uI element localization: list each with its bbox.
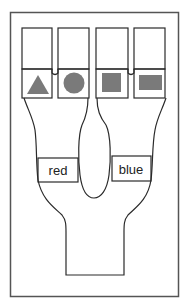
funnel-outline [24, 98, 166, 275]
center-divider [79, 125, 111, 198]
square-icon [102, 73, 121, 92]
connector-left [52, 69, 58, 75]
triangle-icon [27, 75, 49, 94]
left-prong-inner [82, 98, 88, 125]
right-prong-inner [97, 98, 106, 125]
rectangle-icon [139, 75, 162, 90]
top-box-2 [58, 28, 89, 69]
outer-frame [11, 13, 179, 297]
circle-icon [64, 73, 85, 94]
funnel-diagram: red blue [0, 0, 187, 303]
connector-right [128, 69, 134, 75]
label-blue: blue [119, 162, 144, 177]
label-red: red [49, 163, 68, 178]
top-box-1 [22, 28, 52, 69]
top-box-3 [96, 28, 128, 69]
top-box-4 [134, 28, 165, 69]
